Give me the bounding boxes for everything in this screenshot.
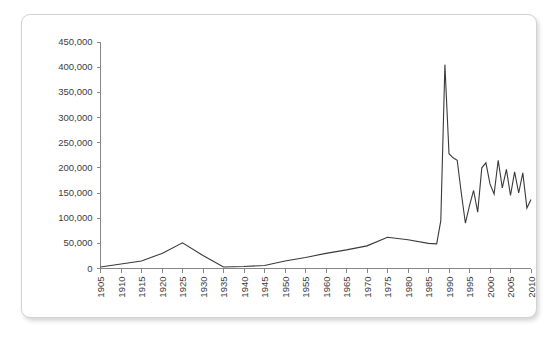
y-tick-label: 300,000 — [58, 112, 92, 123]
y-tick-label: 400,000 — [58, 61, 92, 72]
x-tick-group — [101, 269, 532, 273]
x-tick-label: 1935 — [218, 277, 229, 298]
x-tick-label: 1940 — [239, 277, 250, 298]
y-tick-label: 450,000 — [58, 36, 92, 47]
x-axis: 1905191019151920192519301935194019451950… — [95, 269, 537, 298]
x-tick-label: 1990 — [444, 277, 455, 298]
y-tick-label: 0 — [87, 263, 92, 274]
x-tick-label: 2000 — [485, 277, 496, 298]
y-tick-label: 100,000 — [58, 212, 92, 223]
x-tick-label: 1980 — [403, 277, 414, 298]
x-tick-label: 1960 — [321, 277, 332, 298]
y-tick-label: 350,000 — [58, 86, 92, 97]
line-chart: 050,000100,000150,000200,000250,000300,0… — [0, 0, 559, 338]
x-tick-label: 1955 — [300, 277, 311, 298]
chart-svg: 050,000100,000150,000200,000250,000300,0… — [0, 0, 559, 338]
x-tick-label: 1975 — [382, 277, 393, 298]
x-tick-label: 1905 — [95, 277, 106, 298]
x-tick-label: 1985 — [423, 277, 434, 298]
chart-page: 050,000100,000150,000200,000250,000300,0… — [0, 0, 559, 338]
x-tick-label: 1995 — [464, 277, 475, 298]
x-tick-label: 1920 — [157, 277, 168, 298]
data-series-group — [101, 65, 532, 267]
x-tick-label: 1930 — [198, 277, 209, 298]
y-tick-label: 50,000 — [63, 237, 92, 248]
x-tick-label-group: 1905191019151920192519301935194019451950… — [95, 277, 537, 298]
y-tick-label: 200,000 — [58, 162, 92, 173]
x-tick-label: 1950 — [280, 277, 291, 298]
x-tick-label: 2005 — [505, 277, 516, 298]
y-tick-label: 150,000 — [58, 187, 92, 198]
x-tick-label: 1915 — [136, 277, 147, 298]
y-axis: 050,000100,000150,000200,000250,000300,0… — [58, 36, 100, 274]
x-tick-label: 1965 — [341, 277, 352, 298]
x-tick-label: 1910 — [116, 277, 127, 298]
data-line-series-0 — [101, 65, 532, 267]
x-tick-label: 1970 — [362, 277, 373, 298]
y-tick-label-group: 050,000100,000150,000200,000250,000300,0… — [58, 36, 92, 274]
y-tick-label: 250,000 — [58, 137, 92, 148]
x-tick-label: 1945 — [259, 277, 270, 298]
x-tick-label: 1925 — [177, 277, 188, 298]
y-tick-group — [97, 42, 101, 269]
x-tick-label: 2010 — [526, 277, 537, 298]
